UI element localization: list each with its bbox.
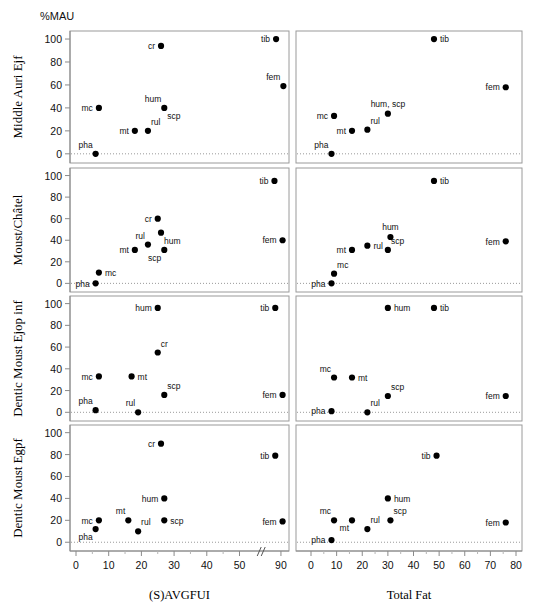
data-point xyxy=(349,128,355,134)
data-point xyxy=(145,128,151,134)
data-point-label: mt xyxy=(116,506,126,516)
data-point-label: fem xyxy=(262,517,276,527)
y-tick-label: 20 xyxy=(50,125,62,137)
data-point xyxy=(503,84,509,90)
data-point-label: pha xyxy=(78,140,92,150)
data-point-label: scp xyxy=(391,382,405,392)
x-axis-label: (S)AVGFUI xyxy=(149,588,210,602)
data-point-label: mt xyxy=(340,523,350,533)
data-point-label: scp xyxy=(148,253,162,263)
data-point xyxy=(503,519,509,525)
data-point-label: mc xyxy=(320,364,332,374)
data-point xyxy=(271,178,277,184)
y-tick-label: 20 xyxy=(50,256,62,268)
data-point-label: tib xyxy=(440,176,449,186)
data-point-label: pha xyxy=(311,535,325,545)
data-point xyxy=(155,305,161,311)
data-point-label: tib xyxy=(422,451,431,461)
row-axis-label-dentic_moust_egpf: Dentic Moust Egpf xyxy=(10,438,25,538)
y-tick-label: 40 xyxy=(50,363,62,375)
data-point-label: pha xyxy=(311,406,325,416)
data-point-label: rul xyxy=(126,398,136,408)
data-point xyxy=(385,247,391,253)
x-tick-label: 80 xyxy=(510,559,522,571)
data-point xyxy=(135,528,141,534)
y-tick-label: 80 xyxy=(50,319,62,331)
data-point-label: hum xyxy=(145,94,162,104)
data-point-label: fem xyxy=(262,235,276,245)
data-point-label: mt xyxy=(337,245,347,255)
data-point-label: hum xyxy=(394,303,411,313)
x-tick-label: 20 xyxy=(136,559,148,571)
x-axis-label: Total Fat xyxy=(387,588,432,602)
data-point-label: scp xyxy=(170,516,184,526)
data-point xyxy=(132,128,138,134)
data-point xyxy=(279,392,285,398)
data-point xyxy=(431,36,437,42)
data-point xyxy=(349,517,355,523)
data-point-label: fem xyxy=(266,72,280,82)
data-point-label: tib xyxy=(261,34,270,44)
x-tick-label: 20 xyxy=(356,559,368,571)
data-point-label: pha xyxy=(75,279,89,289)
x-tick-label: 70 xyxy=(485,559,497,571)
y-tick-label: 20 xyxy=(50,385,62,397)
data-point xyxy=(135,409,141,415)
data-point-label: mc xyxy=(82,516,94,526)
data-point xyxy=(385,393,391,399)
data-point-label: cr xyxy=(145,214,152,224)
y-tick-label: 40 xyxy=(50,234,62,246)
data-point xyxy=(364,526,370,532)
data-point xyxy=(272,453,278,459)
data-point-label: hum xyxy=(394,494,411,504)
data-point xyxy=(385,305,391,311)
x-tick-label: 0 xyxy=(308,559,314,571)
data-point xyxy=(96,105,102,111)
row-axis-label-middle_auri_ejf: Middle Auri Ejf xyxy=(10,55,25,139)
data-point xyxy=(331,113,337,119)
data-point xyxy=(387,517,393,523)
data-point xyxy=(96,269,102,275)
corner-axis-label: %MAU xyxy=(40,10,74,22)
x-tick-label: 40 xyxy=(201,559,213,571)
data-point xyxy=(349,374,355,380)
x-tick-label: 40 xyxy=(408,559,420,571)
data-point xyxy=(161,517,167,523)
x-tick-label: 30 xyxy=(382,559,394,571)
data-point-label: tib xyxy=(260,451,269,461)
data-point xyxy=(349,247,355,253)
data-point-label: scp xyxy=(167,381,181,391)
y-tick-label: 100 xyxy=(44,427,62,439)
row-axis-label-moust_chatel: Moust/Châtel xyxy=(10,194,25,265)
data-point-label: mt xyxy=(119,245,129,255)
x-tick-label: 10 xyxy=(331,559,343,571)
y-tick-label: 60 xyxy=(50,341,62,353)
data-point-label: mc xyxy=(82,103,94,113)
data-point xyxy=(328,537,334,543)
data-point-label: tib xyxy=(440,34,449,44)
data-point xyxy=(93,526,99,532)
y-tick-label: 100 xyxy=(44,33,62,45)
x-tick-label: 60 xyxy=(459,559,471,571)
data-point xyxy=(364,409,370,415)
data-point xyxy=(93,407,99,413)
x-tick-label: 0 xyxy=(73,559,79,571)
data-point xyxy=(503,393,509,399)
data-point xyxy=(328,151,334,157)
data-point-label: hum xyxy=(164,236,181,246)
y-tick-label: 0 xyxy=(56,536,62,548)
data-point-label: rul xyxy=(370,398,380,408)
data-point xyxy=(331,517,337,523)
data-point xyxy=(96,373,102,379)
y-tick-label: 60 xyxy=(50,213,62,225)
data-point-label: rul xyxy=(370,116,380,126)
data-point-label: hum, scp xyxy=(371,99,406,109)
data-point-label: fem xyxy=(486,518,500,528)
data-point xyxy=(96,517,102,523)
data-point xyxy=(125,517,131,523)
data-point-label: scp xyxy=(393,506,407,516)
data-point-label: tib xyxy=(259,176,268,186)
data-point-label: hum xyxy=(382,222,399,232)
data-point xyxy=(93,280,99,286)
data-point xyxy=(155,216,161,222)
